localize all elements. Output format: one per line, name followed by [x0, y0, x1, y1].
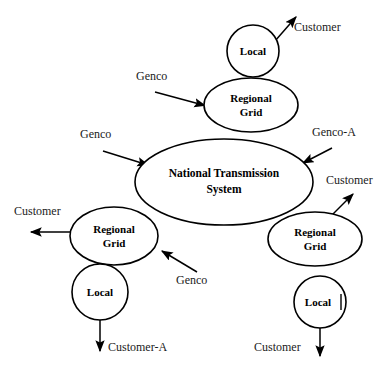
edge-label-local-top-to-customer: Customer — [294, 20, 341, 34]
node-layer: Local Regional Grid National Transmissio… — [70, 25, 362, 328]
node-regional-grid-left[interactable]: Regional Grid — [70, 207, 158, 265]
edge-label-local-right-to-customer: Customer — [254, 340, 301, 354]
edge-genco-to-national-transmission — [103, 151, 148, 165]
node-regional-grid-right[interactable]: Regional Grid — [268, 212, 362, 266]
edge-label-genco-a-to-national-transmission: Genco-A — [312, 125, 356, 139]
regional-grid-right-label-line1: Regional — [294, 226, 336, 238]
edge-regional-grid-right-to-customer — [331, 194, 353, 216]
regional-grid-top-label-line1: Regional — [230, 92, 272, 104]
regional-grid-right-label-line2: Grid — [304, 240, 327, 252]
local-left-label: Local — [87, 286, 113, 298]
edge-label-genco-to-regional-grid-top: Genco — [136, 69, 167, 83]
local-top-label: Local — [240, 45, 266, 57]
regional-grid-top-label-line2: Grid — [240, 106, 263, 118]
national-transmission-system-label-line1: National Transmission — [169, 167, 280, 179]
edge-label-regional-grid-left-to-customer: Customer — [14, 204, 61, 218]
edge-genco-a-to-national-transmission — [303, 148, 332, 163]
node-national-transmission-system[interactable]: National Transmission System — [135, 139, 313, 225]
edge-label-genco-to-regional-grid-left: Genco — [176, 273, 207, 287]
edge-genco-to-regional-grid-left — [162, 251, 197, 272]
edge-label-genco-to-national-transmission: Genco — [80, 127, 111, 141]
node-local-left[interactable]: Local — [72, 264, 128, 320]
regional-grid-left-label-line2: Grid — [103, 237, 126, 249]
edge-local-top-to-customer — [275, 17, 296, 41]
diagram-canvas: Local Regional Grid National Transmissio… — [0, 0, 388, 373]
network-diagram: Local Regional Grid National Transmissio… — [0, 0, 388, 373]
node-regional-grid-top[interactable]: Regional Grid — [204, 78, 298, 132]
node-local-right[interactable]: Local — [294, 276, 346, 328]
edge-genco-to-regional-grid-top — [155, 92, 205, 106]
national-transmission-system-label-line2: System — [206, 183, 242, 196]
regional-grid-left-label-line1: Regional — [93, 223, 135, 235]
node-local-top[interactable]: Local — [227, 25, 279, 77]
edge-label-local-left-to-customer-a: Customer-A — [108, 340, 167, 354]
local-right-label: Local — [305, 296, 331, 308]
edge-label-regional-grid-right-to-customer: Customer — [326, 173, 373, 187]
